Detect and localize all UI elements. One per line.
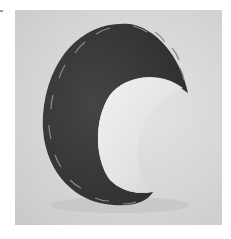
- crescent-inner-face: [98, 77, 183, 193]
- photo: [15, 10, 222, 225]
- corner-mark: [0, 10, 3, 12]
- crescent-sculpture: [15, 10, 222, 225]
